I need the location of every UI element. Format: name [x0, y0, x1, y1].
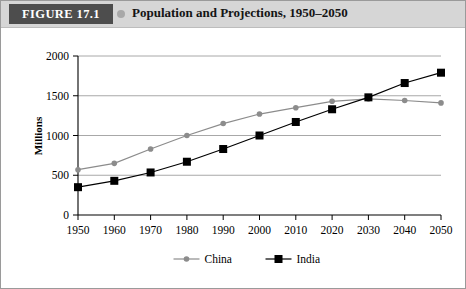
figure-title: Population and Projections, 1950–2050 [132, 5, 348, 21]
data-point-china [148, 146, 154, 152]
legend-label-india: India [297, 253, 321, 265]
y-tick-label: 0 [63, 209, 69, 221]
data-point-china [112, 161, 118, 167]
series-line-india [78, 73, 441, 187]
legend-label-china: China [205, 253, 232, 265]
figure-header: FIGURE 17.1 Population and Projections, … [1, 1, 465, 28]
legend-marker-india [275, 255, 283, 263]
data-point-india [401, 79, 409, 87]
figure-number-badge: FIGURE 17.1 [9, 4, 113, 24]
data-point-china [75, 167, 81, 173]
data-point-india [292, 118, 300, 126]
chart-svg: 0500100015002000195019601970198019902000… [1, 27, 465, 288]
x-tick-label: 2010 [284, 224, 307, 236]
data-point-china [257, 111, 263, 117]
data-point-china [184, 133, 190, 139]
bullet-dot-icon [117, 10, 125, 18]
plot-area: Millions 0500100015002000195019601970198… [1, 27, 465, 288]
data-point-india [74, 183, 82, 191]
data-point-china [293, 105, 299, 111]
x-tick-label: 1980 [175, 224, 198, 236]
x-tick-label: 2040 [393, 224, 416, 236]
data-point-india [437, 69, 445, 77]
x-tick-label: 2000 [248, 224, 271, 236]
data-point-india [219, 145, 227, 153]
y-tick-label: 500 [52, 169, 70, 181]
x-tick-label: 1990 [212, 224, 235, 236]
x-tick-label: 1950 [67, 224, 90, 236]
x-tick-label: 1970 [139, 224, 162, 236]
y-tick-label: 1500 [46, 90, 69, 102]
data-point-china [329, 99, 335, 105]
legend-marker-china [184, 256, 190, 262]
x-tick-label: 1960 [103, 224, 126, 236]
x-tick-label: 2020 [321, 224, 344, 236]
data-point-india [110, 177, 118, 185]
data-point-china [402, 98, 408, 104]
y-tick-label: 1000 [46, 130, 69, 142]
data-point-china [438, 100, 444, 106]
data-point-china [220, 121, 226, 127]
data-point-india [183, 158, 191, 166]
y-tick-label: 2000 [46, 50, 69, 62]
data-point-india [256, 132, 264, 140]
figure-container: FIGURE 17.1 Population and Projections, … [0, 0, 466, 289]
data-point-india [147, 168, 155, 176]
x-tick-label: 2030 [357, 224, 380, 236]
x-tick-label: 2050 [430, 224, 453, 236]
data-point-india [328, 105, 336, 113]
data-point-india [364, 93, 372, 101]
